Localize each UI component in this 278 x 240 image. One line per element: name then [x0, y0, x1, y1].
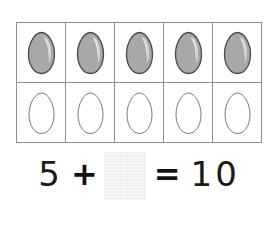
ten-frame-grid: [16, 22, 262, 143]
gray-egg-icon: [124, 31, 155, 75]
gray-egg-icon: [75, 31, 106, 75]
gray-egg-icon: [173, 31, 204, 75]
ten-frame-row-empty: [17, 83, 261, 142]
answer-blank-input[interactable]: [104, 152, 146, 200]
ten-frame-row-filled: [17, 23, 261, 83]
ten-frame-cell-empty-3[interactable]: [115, 83, 164, 142]
gray-egg-icon: [222, 31, 253, 75]
ten-frame-cell-filled-4[interactable]: [164, 23, 213, 82]
ten-frame-cell-empty-1[interactable]: [17, 83, 66, 142]
gray-egg-icon: [26, 31, 57, 75]
addend-first: 5: [38, 157, 61, 191]
white-egg-icon: [222, 91, 253, 135]
equals-operator: =: [154, 158, 181, 190]
white-egg-icon: [173, 91, 204, 135]
ten-frame-cell-empty-5[interactable]: [213, 83, 261, 142]
ten-frame-cell-empty-2[interactable]: [66, 83, 115, 142]
equation-row: 5 + = 10: [0, 148, 278, 200]
ten-frame-cell-filled-5[interactable]: [213, 23, 261, 82]
white-egg-icon: [26, 91, 57, 135]
ten-frame-cell-filled-3[interactable]: [115, 23, 164, 82]
white-egg-icon: [124, 91, 155, 135]
ten-frame-cell-filled-2[interactable]: [66, 23, 115, 82]
sum-value: 10: [191, 157, 240, 191]
ten-frame-cell-empty-4[interactable]: [164, 83, 213, 142]
plus-operator: +: [71, 158, 98, 190]
white-egg-icon: [75, 91, 106, 135]
ten-frame-cell-filled-1[interactable]: [17, 23, 66, 82]
